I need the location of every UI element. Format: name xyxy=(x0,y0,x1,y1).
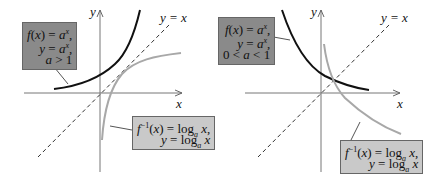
right-y-axis-label: y xyxy=(311,4,317,20)
left-exp-label-box: f(x) = ax, y = ax, a > 1 xyxy=(22,22,77,70)
right-identity-line xyxy=(258,24,390,157)
right-identity-label: y = x xyxy=(381,10,408,26)
left-identity-label: y = x xyxy=(160,10,187,26)
right-x-axis-label: x xyxy=(397,96,403,112)
left-log-pointer xyxy=(110,126,132,130)
right-log-pointer xyxy=(350,122,360,142)
left-x-axis-label: x xyxy=(176,96,182,112)
right-log-label-box: f−1(x) = loga x, y = loga x xyxy=(340,140,423,174)
left-y-axis-label: y xyxy=(90,4,96,20)
left-log-label-box: f−1(x) = loga x, y = loga x xyxy=(132,116,215,150)
right-exp-label-box: f(x) = ax, y = ax, 0 < a < 1 xyxy=(218,17,275,65)
